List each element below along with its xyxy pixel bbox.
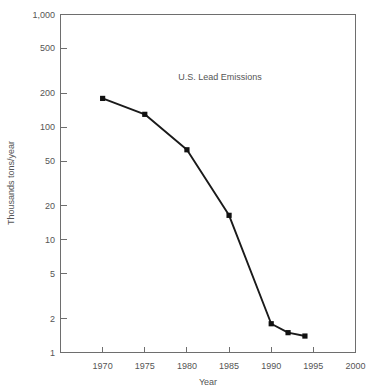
chart-figure: 1,000 500 200 100 50 20 10 5 2 1 1970 19… bbox=[0, 0, 376, 391]
x-tick-label: 1985 bbox=[219, 361, 239, 371]
data-point bbox=[302, 333, 307, 338]
y-tick-label: 20 bbox=[45, 201, 55, 211]
x-tick-label: 2000 bbox=[345, 361, 365, 371]
y-tick-label: 100 bbox=[40, 122, 55, 132]
x-tick-label: 1970 bbox=[93, 361, 113, 371]
y-tick-label: 5 bbox=[50, 269, 55, 279]
x-tick-label: 1995 bbox=[303, 361, 323, 371]
series-line bbox=[103, 98, 305, 336]
data-point bbox=[226, 213, 231, 218]
data-point bbox=[269, 321, 274, 326]
y-tick-label: 1,000 bbox=[32, 10, 55, 20]
x-tick-label: 1990 bbox=[261, 361, 281, 371]
y-axis-ticks bbox=[61, 15, 67, 353]
y-axis-title: Thousands tons/year bbox=[6, 141, 16, 225]
series-markers bbox=[100, 96, 307, 339]
y-tick-label: 1 bbox=[50, 348, 55, 358]
x-tick-label: 1975 bbox=[135, 361, 155, 371]
y-tick-label: 50 bbox=[45, 156, 55, 166]
chart-title: U.S. Lead Emissions bbox=[178, 72, 262, 82]
y-tick-label: 10 bbox=[45, 235, 55, 245]
x-axis-tick-labels: 1970 1975 1980 1985 1990 1995 2000 bbox=[93, 361, 366, 371]
data-point bbox=[184, 147, 189, 152]
y-tick-label: 500 bbox=[40, 43, 55, 53]
y-axis-tick-labels: 1,000 500 200 100 50 20 10 5 2 1 bbox=[32, 10, 55, 358]
data-series-us-lead-emissions bbox=[100, 96, 307, 339]
x-axis-ticks bbox=[103, 347, 356, 353]
data-point bbox=[100, 96, 105, 101]
data-point bbox=[285, 330, 290, 335]
x-axis-title: Year bbox=[199, 377, 217, 387]
y-tick-label: 200 bbox=[40, 88, 55, 98]
data-point bbox=[142, 112, 147, 117]
y-tick-label: 2 bbox=[50, 314, 55, 324]
x-tick-label: 1980 bbox=[177, 361, 197, 371]
line-chart: 1,000 500 200 100 50 20 10 5 2 1 1970 19… bbox=[0, 0, 376, 391]
